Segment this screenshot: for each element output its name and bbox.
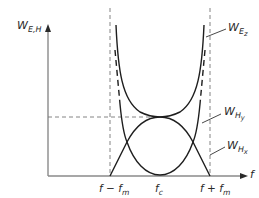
curve-w-hx-dashed: [115, 50, 205, 104]
label-w-hx-subsub: x: [244, 147, 248, 155]
tick-fc: fc: [155, 183, 163, 196]
tick-f-minus-fm-base: f − f: [99, 182, 122, 194]
leader-w-hy: [202, 114, 221, 123]
label-w-hy: WHy: [224, 106, 245, 121]
leader-w-ez: [206, 29, 226, 37]
x-axis-label: f: [250, 169, 254, 180]
curve-w-ez: [116, 25, 204, 117]
x-axis-arrow-icon: [240, 173, 248, 179]
label-w-ez-base: W: [228, 21, 239, 34]
curve-w-hy: [110, 117, 210, 176]
label-w-hy-subsub: y: [241, 113, 245, 121]
label-w-ez: WEz: [228, 22, 247, 37]
label-w-ez-subsub: z: [244, 29, 248, 37]
tick-f-minus-fm: f − fm: [99, 183, 129, 196]
tick-f-minus-fm-sub: m: [122, 188, 129, 197]
leader-lines: [202, 29, 226, 155]
tick-f-plus-fm-sub: m: [223, 188, 230, 197]
label-w-hx: WHx: [227, 140, 248, 155]
y-axis-arrow-icon: [45, 24, 51, 32]
y-axis-label-sub: E,H: [28, 25, 41, 34]
label-w-hx-base: W: [227, 139, 238, 152]
tick-f-plus-fm: f + fm: [200, 183, 230, 196]
curve-w-hx: [120, 104, 200, 175]
y-axis-label: WE,H: [17, 20, 41, 34]
tick-f-plus-fm-base: f + f: [200, 182, 223, 194]
y-axis-label-base: W: [17, 19, 28, 32]
leader-w-hx: [210, 147, 225, 155]
label-w-hy-base: W: [224, 105, 235, 118]
guide-lines: [48, 8, 210, 176]
tick-fc-sub: c: [159, 188, 163, 197]
x-axis-label-text: f: [250, 168, 254, 181]
